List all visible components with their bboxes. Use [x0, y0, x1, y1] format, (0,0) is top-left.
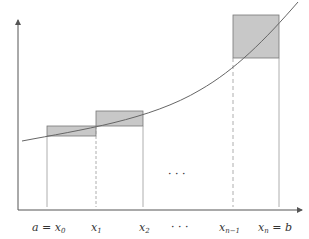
rect-xn1-xn — [233, 15, 279, 58]
label-xn: xn = b — [258, 221, 292, 235]
label-xn1: xn−1 — [219, 221, 240, 235]
label-x0: a = x0 — [32, 221, 66, 235]
label-x2: x2 — [139, 221, 150, 235]
riemann-sum-diagram: · · · a = x0 x1 x2 · · · xn−1 xn = b — [0, 0, 309, 239]
label-x1: x1 — [91, 221, 102, 235]
middle-dots: · · · — [168, 168, 185, 181]
rectangles — [47, 15, 279, 136]
rect-x1-x2 — [96, 111, 143, 126]
label-axis-dots: · · · — [171, 221, 188, 234]
